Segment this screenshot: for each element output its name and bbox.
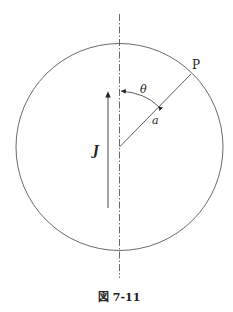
point-label: P bbox=[192, 58, 200, 72]
figure-caption: 図 7-11 bbox=[98, 290, 140, 304]
current-label: J bbox=[91, 144, 100, 158]
radius-line bbox=[120, 74, 192, 147]
angle-label: θ bbox=[140, 83, 147, 96]
radius-label: a bbox=[152, 114, 159, 127]
figure: P θ a J 図 7-11 bbox=[0, 0, 233, 312]
